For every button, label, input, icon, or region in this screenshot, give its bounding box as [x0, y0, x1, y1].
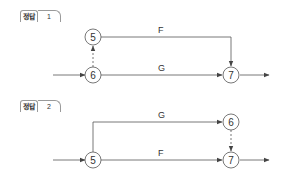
svg-text:6: 6: [90, 70, 96, 81]
node-7: 7: [223, 67, 239, 83]
node-7: 7: [223, 152, 239, 168]
node-5: 5: [85, 29, 101, 45]
svg-text:6: 6: [228, 117, 234, 128]
network-diagrams: F G 5 6 7 G F: [0, 0, 288, 175]
svg-text:5: 5: [90, 155, 96, 166]
edge-label-G: G: [158, 63, 165, 73]
edge-label-F: F: [158, 148, 164, 158]
diagram-1: F G 5 6 7: [53, 25, 269, 83]
edge-label-F: F: [158, 25, 164, 35]
edge-5-to-7-F: [101, 37, 231, 66]
svg-text:7: 7: [228, 155, 234, 166]
diagram-2: G F 5 6 7: [53, 110, 269, 168]
svg-text:5: 5: [90, 32, 96, 43]
node-5: 5: [85, 152, 101, 168]
svg-text:7: 7: [228, 70, 234, 81]
node-6: 6: [223, 114, 239, 130]
node-6: 6: [85, 67, 101, 83]
edge-label-G: G: [158, 110, 165, 120]
